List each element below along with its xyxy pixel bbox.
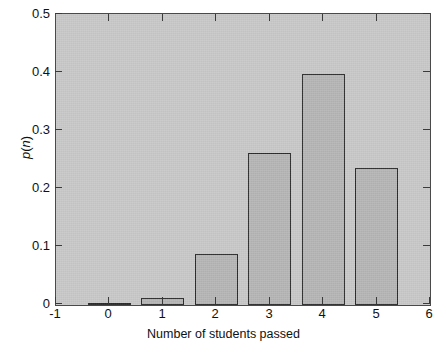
- y-axis-title-fn: p: [18, 152, 33, 159]
- x-tick-mark: [215, 297, 216, 304]
- bar-n-2: [195, 254, 238, 305]
- y-tick-mark: [55, 129, 62, 130]
- y-tick-mark: [55, 245, 62, 246]
- y-tick-mark-right: [423, 187, 430, 188]
- y-tick-mark: [55, 13, 62, 14]
- y-tick-mark: [55, 303, 62, 304]
- x-tick-label: 2: [195, 306, 235, 321]
- y-tick-mark: [55, 71, 62, 72]
- x-tick-mark-top: [108, 14, 109, 21]
- y-tick-mark-right: [423, 71, 430, 72]
- y-axis-title-arg: n: [18, 140, 33, 147]
- x-axis-title: Number of students passed: [0, 327, 447, 341]
- x-tick-label: 6: [409, 306, 447, 321]
- y-axis-title-open: (: [18, 148, 33, 152]
- bar-n-0: [88, 303, 131, 305]
- x-tick-mark: [429, 297, 430, 304]
- x-tick-mark: [55, 297, 56, 304]
- y-tick-mark-right: [423, 13, 430, 14]
- x-tick-mark: [322, 297, 323, 304]
- y-tick-mark-right: [423, 129, 430, 130]
- x-tick-mark-top: [215, 14, 216, 21]
- x-tick-mark-top: [162, 14, 163, 21]
- x-tick-mark-top: [322, 14, 323, 21]
- figure-container: 0.5 0.4 0.3 0.2 0.1 0 -1 0 1 2 3 4 5 6 N…: [0, 0, 447, 354]
- x-tick-mark: [162, 297, 163, 304]
- y-tick-label: 0.4: [20, 64, 50, 79]
- x-tick-mark-top: [269, 14, 270, 21]
- bar-n-5: [355, 168, 398, 305]
- plot-area: [55, 13, 431, 306]
- y-axis-title: p(n): [18, 118, 33, 178]
- bar-n-4: [302, 74, 345, 305]
- y-tick-label: 0.1: [20, 238, 50, 253]
- bar-n-3: [248, 153, 291, 305]
- x-tick-mark: [108, 297, 109, 304]
- y-tick-mark-right: [423, 245, 430, 246]
- x-tick-label: -1: [35, 306, 75, 321]
- y-axis-title-close: ): [18, 136, 33, 140]
- y-tick-mark: [55, 187, 62, 188]
- y-tick-label: 0.2: [20, 180, 50, 195]
- x-tick-mark: [376, 297, 377, 304]
- x-tick-label: 5: [356, 306, 396, 321]
- x-tick-mark: [269, 297, 270, 304]
- y-tick-label: 0.5: [20, 6, 50, 21]
- x-tick-label: 0: [88, 306, 128, 321]
- x-tick-label: 1: [142, 306, 182, 321]
- x-tick-label: 4: [302, 306, 342, 321]
- x-tick-mark-top: [376, 14, 377, 21]
- x-tick-label: 3: [249, 306, 289, 321]
